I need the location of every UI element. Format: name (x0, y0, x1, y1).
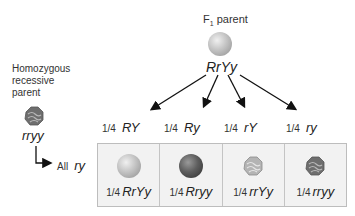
gamete-allele: Ry (184, 120, 200, 135)
offspring-fraction: 1/4 (106, 187, 120, 198)
gamete-ry: 1/4ry (286, 118, 317, 136)
offspring-fraction: 1/4 (297, 187, 311, 198)
offspring-fraction: 1/4 (170, 187, 184, 198)
round-green-pea-icon (179, 154, 203, 178)
wrinkled-green-pea-icon (303, 154, 327, 178)
label-line: parent (12, 87, 70, 99)
offspring-cell: 1/4Rryy (160, 144, 222, 206)
recessive-gametes: Allry (57, 156, 85, 174)
gamete-rY: 1/4rY (224, 118, 257, 136)
gamete-RY: 1/4RY (102, 118, 139, 136)
offspring-genotype: Rryy (185, 184, 212, 199)
offspring-genotype: rryy (312, 184, 334, 199)
gamete-fraction: 1/4 (164, 123, 178, 134)
wrinkled-yellow-pea-icon (241, 154, 265, 178)
recessive-parent-label: Homozygous recessive parent (12, 63, 70, 99)
label-line: recessive (12, 75, 70, 87)
wrinkled-green-pea-icon (22, 104, 46, 128)
offspring-cell: 1/4rrYy (223, 144, 285, 206)
offspring-genotype: rrYy (249, 184, 273, 199)
gamete-allele: ry (306, 120, 317, 135)
offspring-genotype: RrYy (122, 184, 151, 199)
offspring-cell: 1/4RrYy (98, 144, 160, 206)
gamete-allele: rY (244, 120, 257, 135)
offspring-grid: 1/4RrYy 1/4Rryy 1/4rrYy 1/4rryy (97, 143, 347, 207)
offspring-cell: 1/4rryy (285, 144, 346, 206)
offspring-fraction: 1/4 (233, 187, 247, 198)
gamete-fraction: 1/4 (286, 123, 300, 134)
recessive-genotype: rryy (22, 128, 44, 143)
gamete-fraction: 1/4 (224, 123, 238, 134)
round-yellow-pea-icon (117, 154, 141, 178)
gamete-Ry: 1/4Ry (164, 118, 200, 136)
all-label: All (57, 161, 68, 172)
gamete-fraction: 1/4 (102, 123, 116, 134)
gamete-allele: RY (122, 120, 140, 135)
recessive-gamete-allele: ry (74, 158, 85, 173)
label-line: Homozygous (12, 63, 70, 75)
